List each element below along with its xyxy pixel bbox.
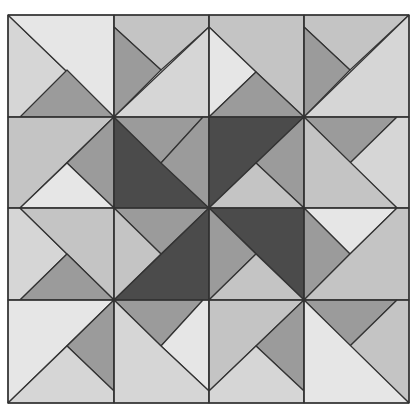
quilt-pattern	[0, 0, 418, 412]
